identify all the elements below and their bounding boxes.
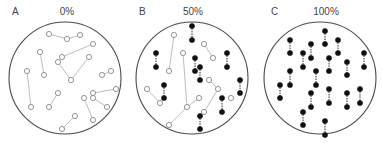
filled-dot-marker (326, 55, 331, 60)
filled-dot-marker (361, 50, 366, 55)
unpaired-link-line (84, 98, 93, 120)
hollow-dot-marker (90, 41, 95, 46)
unpaired-link-line (169, 107, 187, 125)
hollow-dot-marker (72, 113, 77, 118)
filled-dot-marker (308, 90, 313, 95)
filled-dot-marker (277, 82, 282, 87)
hollow-dot-marker (81, 95, 86, 100)
hollow-dot-marker (171, 32, 176, 37)
panel-b-letter: B (139, 6, 146, 17)
filled-dot-marker (344, 72, 349, 77)
filled-dot-marker (300, 50, 305, 55)
unpaired-link-line (204, 89, 218, 112)
hollow-dot-marker (59, 126, 64, 131)
hollow-dot-marker (228, 95, 233, 100)
filled-dot-marker (357, 86, 362, 91)
hollow-dot-marker (55, 90, 60, 95)
panel-c-percent-label: 100% (313, 6, 339, 17)
filled-dot-marker (287, 82, 292, 87)
hollow-dot-marker (113, 86, 118, 91)
panel-b-percent-label: 50% (183, 6, 203, 17)
hollow-dot-marker (46, 31, 51, 36)
hollow-dot-marker (201, 41, 206, 46)
hollow-dot-marker (166, 68, 171, 73)
hollow-dot-marker (104, 104, 109, 109)
filled-dot-marker (197, 77, 202, 82)
filled-dot-marker (322, 132, 327, 137)
hollow-dot-marker (215, 86, 220, 91)
filled-dot-marker (335, 50, 340, 55)
hollow-dot-marker (206, 77, 211, 82)
hollow-dot-marker (184, 104, 189, 109)
unpaired-link-line (40, 52, 44, 75)
filled-dot-marker (224, 64, 229, 69)
hollow-dot-marker (166, 122, 171, 127)
filled-dot-marker (308, 104, 313, 109)
hollow-dot-marker (90, 90, 95, 95)
hollow-dot-marker (196, 95, 201, 100)
hollow-dot-marker (28, 104, 33, 109)
filled-dot-marker (197, 126, 202, 131)
hollow-dot-marker (55, 59, 60, 64)
hollow-dot-marker (99, 72, 104, 77)
filled-dot-marker (287, 50, 292, 55)
filled-dot-marker (308, 41, 313, 46)
unpaired-link-line (93, 89, 116, 93)
filled-dot-marker (326, 68, 331, 73)
filled-dot-marker (322, 28, 327, 33)
hollow-dot-marker (108, 68, 113, 73)
panel-c: C 100% (264, 6, 376, 138)
filled-dot-marker (300, 64, 305, 69)
panel-c-letter: C (271, 6, 278, 17)
hollow-dot-marker (144, 86, 149, 91)
filled-dot-marker (313, 82, 318, 87)
filled-dot-marker (277, 95, 282, 100)
filled-dot-marker (219, 109, 224, 114)
filled-dot-marker (192, 68, 197, 73)
filled-dot-marker (237, 77, 242, 82)
filled-dot-marker (189, 37, 194, 42)
hollow-dot-marker (210, 55, 215, 60)
panel-b: B 50% (136, 6, 248, 134)
filled-dot-marker (357, 100, 362, 105)
unpaired-link-line (58, 62, 71, 80)
hollow-dot-marker (157, 100, 162, 105)
filled-dot-marker (192, 55, 197, 60)
filled-dot-marker (344, 104, 349, 109)
hollow-dot-marker (24, 68, 29, 73)
hollow-dot-marker (41, 72, 46, 77)
panel-c-dots (277, 28, 366, 137)
filled-dot-marker (335, 37, 340, 42)
filled-dot-marker (322, 118, 327, 123)
panel-a-percent-label: 0% (60, 6, 75, 17)
filled-dot-marker (197, 64, 202, 69)
hollow-dot-marker (86, 54, 91, 59)
unpaired-link-line (71, 57, 89, 80)
hollow-dot-marker (180, 50, 185, 55)
filled-dot-marker (153, 64, 158, 69)
filled-dot-marker (313, 68, 318, 73)
hollow-dot-marker (77, 32, 82, 37)
unpaired-link-line (183, 53, 187, 107)
filled-dot-marker (153, 50, 158, 55)
hollow-dot-marker (90, 95, 95, 100)
filled-dot-marker (224, 50, 229, 55)
filled-dot-marker (287, 37, 292, 42)
filled-dot-marker (344, 90, 349, 95)
hollow-dot-marker (64, 36, 69, 41)
filled-dot-marker (237, 90, 242, 95)
filled-dot-marker (161, 95, 166, 100)
three-panel-pairing-diagram: A 0% B 50% C 100% (0, 0, 382, 143)
hollow-dot-marker (59, 54, 64, 59)
filled-dot-marker (197, 113, 202, 118)
panel-a-dots (24, 31, 118, 131)
filled-dot-marker (361, 64, 366, 69)
panel-a: A 0% (9, 6, 121, 134)
filled-dot-marker (219, 95, 224, 100)
filled-dot-marker (189, 23, 194, 28)
unpaired-link-line (27, 71, 31, 107)
hollow-dot-marker (90, 117, 95, 122)
filled-dot-marker (322, 41, 327, 46)
hollow-dot-marker (46, 104, 51, 109)
hollow-dot-marker (68, 77, 73, 82)
